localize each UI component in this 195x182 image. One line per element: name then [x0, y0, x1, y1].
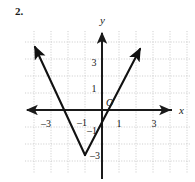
y-axis-label: y	[99, 14, 105, 26]
x-tick-label-neg3: –3	[40, 118, 51, 129]
x-axis-label: x	[178, 104, 184, 116]
y-tick-label-neg3: –3	[89, 150, 100, 161]
graph-left-branch	[35, 47, 85, 155]
x-tick-label-3: 3	[152, 118, 157, 129]
y-tick-label-3: 3	[92, 57, 97, 68]
y-tick-label-neg1: –1	[86, 125, 97, 136]
y-tick-label-1: 1	[92, 83, 97, 94]
coordinate-plane-svg: –3 –1 1 3 3 1 –1 –3 O y x	[0, 0, 195, 182]
graph-figure: 2.	[0, 0, 195, 182]
x-tick-label-neg1: –1	[76, 117, 87, 128]
origin-label: O	[106, 97, 113, 108]
x-tick-label-1: 1	[117, 118, 122, 129]
